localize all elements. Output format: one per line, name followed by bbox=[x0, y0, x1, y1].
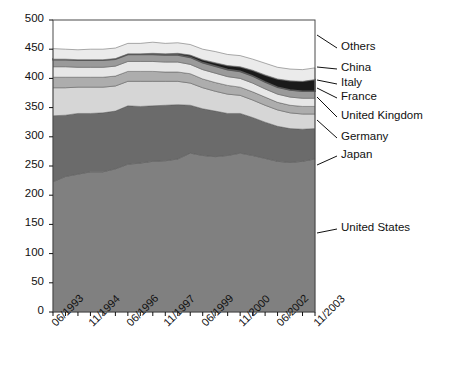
y-axis-tick-label: 100 bbox=[8, 246, 44, 258]
legend-leader-line bbox=[317, 229, 337, 233]
legend-leader-line bbox=[317, 88, 337, 98]
y-axis-tick-label: 150 bbox=[8, 216, 44, 228]
legend-leader-line bbox=[317, 35, 337, 48]
y-axis-tick-label: 0 bbox=[8, 304, 44, 316]
y-axis-tick-label: 500 bbox=[8, 12, 44, 24]
legend-label-china: China bbox=[341, 61, 371, 73]
y-axis-tick-label: 250 bbox=[8, 158, 44, 170]
legend-label-united-states: United States bbox=[341, 221, 410, 233]
chart-figure: 05010015020025030035040045050006/199311/… bbox=[0, 0, 454, 382]
y-axis-tick-label: 400 bbox=[8, 70, 44, 82]
legend-leader-line bbox=[317, 80, 337, 84]
y-axis-tick-label: 300 bbox=[8, 129, 44, 141]
y-axis-tick-label: 200 bbox=[8, 187, 44, 199]
legend-label-others: Others bbox=[341, 40, 376, 52]
legend-label-japan: Japan bbox=[341, 148, 372, 160]
legend-leader-line bbox=[317, 156, 337, 165]
legend-leader-line bbox=[317, 120, 337, 138]
area-band-united-states bbox=[53, 153, 315, 312]
legend-leader-line bbox=[317, 97, 337, 117]
y-axis-tick-label: 350 bbox=[8, 100, 44, 112]
legend-label-italy: Italy bbox=[341, 76, 362, 88]
y-axis-tick-label: 50 bbox=[8, 275, 44, 287]
stacked-area-chart bbox=[0, 0, 454, 382]
legend-label-united-kingdom: United Kingdom bbox=[341, 109, 423, 121]
legend-label-germany: Germany bbox=[341, 130, 388, 142]
legend-label-france: France bbox=[341, 90, 377, 102]
y-axis-tick-label: 450 bbox=[8, 41, 44, 53]
legend-leader-line bbox=[317, 67, 337, 69]
